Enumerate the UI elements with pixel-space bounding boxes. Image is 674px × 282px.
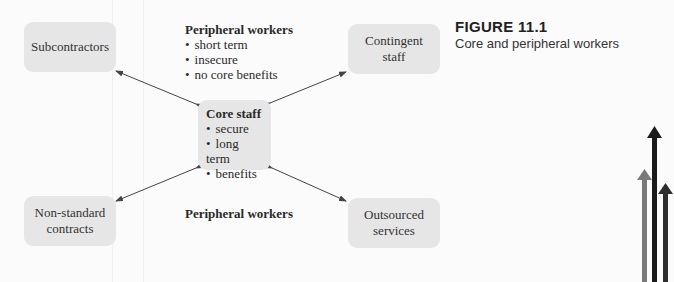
decorative-arrows-icon — [637, 126, 673, 282]
node-outsourced-services-label: Outsourced services — [364, 207, 424, 239]
node-core-staff: Core staff secure long term benefits — [198, 100, 271, 170]
node-non-standard-contracts-label: Non-standard contracts — [35, 205, 106, 237]
figure-caption: Core and peripheral workers — [455, 36, 619, 51]
peripheral-workers-top: Peripheral workers short term insecure n… — [185, 22, 293, 82]
node-subcontractors-label: Subcontractors — [31, 39, 109, 55]
label-line: services — [373, 223, 415, 238]
node-non-standard-contracts: Non-standard contracts — [24, 196, 116, 246]
peripheral-workers-bottom-title: Peripheral workers — [185, 206, 293, 221]
node-outsourced-services: Outsourced services — [348, 198, 440, 248]
peripheral-workers-bottom: Peripheral workers — [185, 206, 293, 221]
peripheral-item: short term — [185, 37, 293, 52]
node-subcontractors: Subcontractors — [24, 22, 116, 72]
peripheral-item: insecure — [185, 52, 293, 67]
node-contingent-staff: Contingent staff — [348, 24, 440, 74]
core-staff-list: secure long term benefits — [206, 121, 263, 181]
label-line: Outsourced — [364, 207, 424, 222]
core-staff-title: Core staff — [206, 106, 263, 121]
peripheral-item: no core benefits — [185, 67, 293, 82]
label-line: contracts — [47, 221, 94, 236]
core-staff-item: benefits — [206, 166, 263, 181]
peripheral-workers-list: short term insecure no core benefits — [185, 37, 293, 82]
label-line: Contingent — [365, 33, 423, 48]
core-staff-item: secure — [206, 121, 263, 136]
core-staff-item: long term — [206, 136, 263, 166]
label-line: staff — [383, 49, 406, 64]
figure-number: FIGURE 11.1 — [455, 18, 548, 35]
label-line: Non-standard — [35, 205, 106, 220]
peripheral-workers-title: Peripheral workers — [185, 22, 293, 37]
node-contingent-staff-label: Contingent staff — [365, 33, 423, 65]
